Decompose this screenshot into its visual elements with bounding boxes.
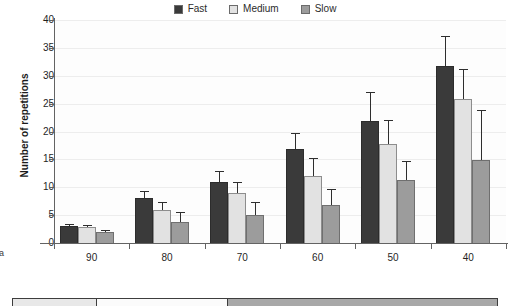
error-bar-cap	[402, 161, 411, 162]
legend-label: Slow	[315, 4, 337, 14]
x-axis-tick-label: 80	[147, 252, 187, 263]
x-axis-tick-mark	[54, 244, 55, 249]
x-axis-tick-label: 40	[448, 252, 488, 263]
bottom-partial-table	[12, 298, 498, 306]
legend-entry-slow[interactable]: Slow	[301, 4, 337, 14]
bar-medium-50[interactable]	[379, 144, 397, 243]
figure-panel-a: a FastMediumSlow Number of repetitions 0…	[0, 0, 510, 306]
error-bar-stem	[388, 120, 389, 144]
error-bar-stem	[406, 161, 407, 180]
error-bar-cap	[251, 202, 260, 203]
bar-medium-90[interactable]	[78, 227, 96, 243]
error-bar-cap	[176, 212, 185, 213]
bar-fast-80[interactable]	[135, 198, 153, 243]
x-axis-tick-mark	[280, 244, 281, 249]
y-axis-tick-mark	[49, 48, 54, 49]
error-bar-cap	[477, 110, 486, 111]
bar-medium-60[interactable]	[304, 176, 322, 243]
y-axis-tick-mark	[49, 104, 54, 105]
error-bar-stem	[370, 92, 371, 121]
bar-fast-50[interactable]	[361, 121, 379, 243]
error-bar-cap	[83, 225, 92, 226]
y-axis-line	[54, 18, 55, 245]
gridline	[54, 20, 506, 21]
error-bar-stem	[295, 133, 296, 150]
y-axis-tick-mark	[49, 76, 54, 77]
error-bar-stem	[445, 36, 446, 66]
legend-label: Fast	[188, 4, 207, 14]
legend-entry-medium[interactable]: Medium	[229, 4, 279, 14]
plot-area	[54, 20, 506, 243]
y-axis-tick-mark	[49, 215, 54, 216]
y-axis-tick-mark	[49, 20, 54, 21]
bar-fast-90[interactable]	[60, 226, 78, 243]
bar-fast-70[interactable]	[210, 182, 228, 243]
error-bar-cap	[309, 158, 318, 159]
error-bar-stem	[255, 202, 256, 215]
bar-slow-90[interactable]	[96, 232, 114, 243]
bar-slow-70[interactable]	[246, 215, 264, 243]
legend-swatch-icon	[301, 5, 310, 14]
x-axis-tick-label: 90	[72, 252, 112, 263]
x-axis-tick-mark	[506, 244, 507, 249]
table-cell	[13, 299, 97, 306]
error-bar-cap	[215, 171, 224, 172]
bar-medium-70[interactable]	[228, 193, 246, 243]
error-bar-cap	[366, 92, 375, 93]
error-bar-stem	[144, 191, 145, 198]
error-bar-cap	[459, 69, 468, 70]
error-bar-stem	[237, 182, 238, 193]
error-bar-stem	[180, 212, 181, 222]
bar-slow-80[interactable]	[171, 222, 189, 243]
x-axis-tick-label: 60	[298, 252, 338, 263]
error-bar-cap	[158, 202, 167, 203]
legend-entry-fast[interactable]: Fast	[174, 4, 207, 14]
x-axis-tick-mark	[431, 244, 432, 249]
error-bar-cap	[384, 120, 393, 121]
bar-fast-60[interactable]	[286, 149, 304, 243]
bar-medium-40[interactable]	[454, 99, 472, 243]
error-bar-cap	[327, 189, 336, 190]
y-axis-tick-mark	[49, 187, 54, 188]
bar-slow-60[interactable]	[322, 205, 340, 243]
bar-slow-40[interactable]	[472, 160, 490, 243]
x-axis-tick-label: 50	[373, 252, 413, 263]
bar-slow-50[interactable]	[397, 180, 415, 243]
error-bar-stem	[463, 69, 464, 99]
error-bar-stem	[313, 158, 314, 176]
legend-swatch-icon	[229, 5, 238, 14]
table-cell	[97, 299, 228, 306]
table-cell	[228, 299, 497, 306]
bar-fast-40[interactable]	[436, 66, 454, 243]
x-axis-line	[40, 243, 508, 244]
bar-medium-80[interactable]	[153, 210, 171, 243]
y-axis-tick-mark	[49, 132, 54, 133]
panel-letter: a	[0, 248, 4, 258]
error-bar-stem	[162, 202, 163, 209]
y-axis-tick-mark	[49, 159, 54, 160]
legend-label: Medium	[243, 4, 279, 14]
error-bar-cap	[101, 230, 110, 231]
error-bar-stem	[481, 110, 482, 160]
x-axis-tick-label: 70	[222, 252, 262, 263]
gridline	[54, 48, 506, 49]
legend-swatch-icon	[174, 5, 183, 14]
error-bar-cap	[140, 191, 149, 192]
error-bar-cap	[65, 224, 74, 225]
chart-legend: FastMediumSlow	[0, 1, 510, 17]
error-bar-stem	[331, 189, 332, 205]
error-bar-cap	[233, 182, 242, 183]
x-axis-tick-mark	[129, 244, 130, 249]
error-bar-cap	[441, 36, 450, 37]
x-axis-tick-mark	[355, 244, 356, 249]
x-axis-tick-mark	[205, 244, 206, 249]
error-bar-stem	[219, 171, 220, 182]
error-bar-cap	[291, 133, 300, 134]
